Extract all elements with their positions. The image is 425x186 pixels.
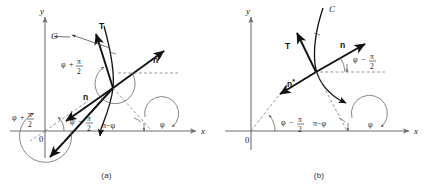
svg-text:2: 2 xyxy=(28,120,32,129)
x-axis-label: x xyxy=(200,126,205,136)
origin-label: 0 xyxy=(245,135,249,145)
vector-T-ray xyxy=(96,34,113,88)
angle-arc-pi-minus-phi xyxy=(339,118,345,122)
curve-C-arrow-end xyxy=(100,129,101,136)
panel-a-canvas: x y 0 C n* n T xyxy=(0,0,213,186)
svg-text:φ: φ xyxy=(61,60,66,69)
angle-label-pi-minus-phi: π−φ xyxy=(313,119,327,128)
panel-b: x y 0 C n n* T xyxy=(213,0,425,186)
angle-label-phi-minus-half-pi-upper: φ − π 2 xyxy=(353,52,376,71)
curve-C-arrow-end xyxy=(338,99,346,103)
panel-b-canvas: x y 0 C n n* T xyxy=(213,0,425,186)
angle-label-phi: φ xyxy=(368,120,373,129)
dashed-ray-to-x-axis xyxy=(113,88,152,131)
svg-text:π: π xyxy=(370,52,374,61)
vector-T-back-arrow xyxy=(50,142,64,157)
panel-a-caption: (a) xyxy=(0,171,213,180)
origin-label: 0 xyxy=(39,134,43,144)
angle-label-phi: φ xyxy=(160,120,165,129)
svg-text:−: − xyxy=(289,118,294,127)
svg-text:2: 2 xyxy=(370,62,374,71)
vector-n-star-label: n* xyxy=(287,78,295,89)
svg-text:−: − xyxy=(361,55,366,64)
vector-T-label: T xyxy=(285,41,291,51)
vector-n-label: n xyxy=(340,40,345,50)
angle-arc-phi-minus-half-pi-upper xyxy=(340,57,345,72)
vector-T-ray xyxy=(297,33,316,72)
svg-text:+: + xyxy=(69,60,74,69)
y-axis-label: y xyxy=(245,6,250,16)
dashed-ray-to-n xyxy=(45,101,88,131)
figure-root: x y 0 C n* n T xyxy=(0,0,425,186)
svg-text:π: π xyxy=(28,110,32,119)
curve-C-label: C xyxy=(329,4,336,14)
svg-text:2: 2 xyxy=(77,67,81,76)
svg-text:2: 2 xyxy=(298,125,302,134)
angle-label-phi-plus-half-pi-center: φ + π 2 xyxy=(61,57,83,76)
y-axis-label: y xyxy=(39,6,44,16)
angle-arc-phi-minus-half-pi-lower xyxy=(269,115,275,131)
vector-n-label: n xyxy=(83,92,88,102)
angle-label-phi-minus-half-pi: φ − π 2 xyxy=(70,114,93,133)
panel-a: x y 0 C n* n T xyxy=(0,0,213,186)
x-axis-label: x xyxy=(413,126,418,136)
svg-text:φ: φ xyxy=(281,118,286,127)
curve-C-label: C xyxy=(51,31,58,41)
angle-arc-phi-minus-half-pi xyxy=(58,117,64,131)
svg-text:+: + xyxy=(20,113,25,122)
svg-text:φ: φ xyxy=(353,55,358,64)
angle-label-phi-plus-half-pi-left: φ + π 2 xyxy=(12,110,34,129)
angle-label-pi-minus-phi: π−φ xyxy=(102,121,116,130)
angle-arc-pi-minus-phi xyxy=(134,118,141,122)
svg-text:π: π xyxy=(77,57,81,66)
vector-T-label: T xyxy=(99,21,105,31)
panel-b-caption: (b) xyxy=(213,171,425,180)
curve-C xyxy=(101,26,113,129)
svg-text:−: − xyxy=(78,117,83,126)
vector-n-star-ray xyxy=(280,72,316,94)
vector-n-star-label: n* xyxy=(153,54,161,65)
svg-text:φ: φ xyxy=(70,117,75,126)
svg-text:π: π xyxy=(298,115,302,124)
svg-text:π: π xyxy=(87,114,91,123)
curve-C-leader xyxy=(54,37,70,38)
svg-text:φ: φ xyxy=(12,113,17,122)
tangent-arrow xyxy=(72,35,110,48)
curve-C xyxy=(314,8,338,99)
svg-text:2: 2 xyxy=(87,124,91,133)
